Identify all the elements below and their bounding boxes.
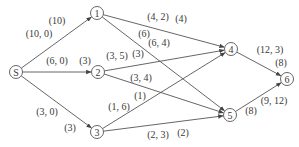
node-label: 4 — [229, 44, 234, 55]
edge-label: (3) — [64, 122, 76, 134]
edge-label: (3) — [132, 48, 144, 60]
edge-label: (8) — [245, 105, 257, 117]
edge-label: (9, 12) — [261, 95, 288, 107]
labels-layer: (10)(10, 0)(6, 0)(3)(3, 0)(3)(4, 2)(4)(6… — [26, 11, 288, 141]
edge-label: (3, 0) — [36, 106, 58, 118]
edge-label: (3, 5) — [106, 50, 128, 62]
edge-label: (1, 6) — [108, 101, 130, 113]
edge-S-3 — [21, 76, 91, 128]
graph-canvas: (10)(10, 0)(6, 0)(3)(3, 0)(3)(4, 2)(4)(6… — [0, 0, 299, 147]
edge-label: (6, 0) — [46, 55, 68, 67]
node-label: 3 — [95, 127, 100, 138]
node-5: 5 — [224, 109, 237, 122]
edge-label: (3) — [79, 55, 91, 67]
node-label: 1 — [95, 8, 100, 19]
node-1: 1 — [91, 7, 104, 20]
node-label: 2 — [96, 67, 101, 78]
node-label: S — [13, 67, 19, 78]
network-flow-diagram: (10)(10, 0)(6, 0)(3)(3, 0)(3)(4, 2)(4)(6… — [0, 0, 299, 147]
edge-label: (4, 2) — [147, 11, 169, 23]
node-4: 4 — [225, 43, 238, 56]
node-6: 6 — [281, 73, 294, 86]
edge-label: (10, 0) — [26, 28, 53, 40]
edge-label: (1) — [134, 90, 146, 102]
edge-label: (12, 3) — [257, 44, 284, 56]
node-label: 5 — [228, 110, 233, 121]
node-2: 2 — [92, 66, 105, 79]
edge-label: (2, 3) — [147, 129, 169, 141]
edge-label: (10) — [49, 15, 66, 27]
edge-label: (3, 4) — [130, 72, 152, 84]
edge-label: (2) — [177, 127, 189, 139]
edge-label: (8) — [275, 57, 287, 69]
edge-label: (6, 4) — [148, 37, 170, 49]
node-label: 6 — [285, 74, 290, 85]
node-3: 3 — [91, 126, 104, 139]
node-S: S — [10, 66, 23, 79]
edge-label: (4) — [175, 13, 187, 25]
